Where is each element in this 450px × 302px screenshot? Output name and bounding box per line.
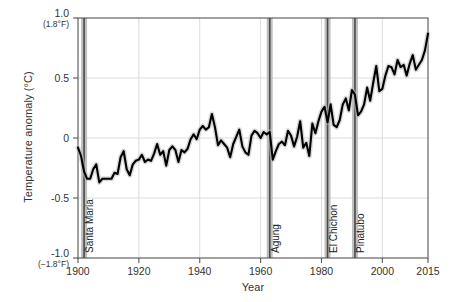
svg-text:1980: 1980 <box>310 265 334 277</box>
volcano-marker-labels: Santa MariaAgungEl ChichonPinatubo <box>84 199 366 253</box>
svg-text:0.5: 0.5 <box>54 72 69 84</box>
y-axis-ticks: -1.0(−1.8°F)-0.500.51.0(1.8°F) <box>38 7 78 269</box>
temperature-anomaly-chart: Temperature anomaly (°C) Year -1.0(−1.8°… <box>0 0 450 302</box>
temperature-line-shadow <box>78 34 428 183</box>
svg-text:0: 0 <box>63 132 69 144</box>
volcano-label-2: El Chichon <box>328 205 339 253</box>
plot-area: -1.0(−1.8°F)-0.500.51.0(1.8°F) 190019201… <box>0 0 450 302</box>
svg-text:-0.5: -0.5 <box>51 192 69 204</box>
svg-text:2000: 2000 <box>371 265 395 277</box>
svg-text:1900: 1900 <box>66 265 90 277</box>
svg-text:2015: 2015 <box>416 265 440 277</box>
x-axis-title: Year <box>78 281 428 293</box>
x-axis-ticks: 1900192019401960198020002015 <box>66 258 440 277</box>
svg-text:(−1.8°F): (−1.8°F) <box>38 259 69 269</box>
svg-text:(1.8°F): (1.8°F) <box>43 19 69 29</box>
temperature-line <box>78 34 428 183</box>
svg-text:1.0: 1.0 <box>54 7 69 19</box>
svg-text:-1.0: -1.0 <box>51 247 69 259</box>
svg-text:1960: 1960 <box>249 265 273 277</box>
volcano-label-3: Pinatubo <box>355 213 366 253</box>
svg-text:1940: 1940 <box>188 265 212 277</box>
volcano-label-0: Santa Maria <box>84 199 95 253</box>
y-axis-title: Temperature anomaly (°C) <box>22 47 34 227</box>
svg-text:1920: 1920 <box>127 265 151 277</box>
volcano-label-1: Agung <box>270 224 281 253</box>
